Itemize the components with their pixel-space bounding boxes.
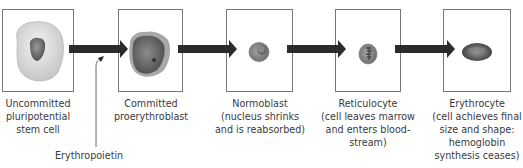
caption-stem-cell: Uncommitted pluripotential stem cell bbox=[0, 97, 76, 136]
arrow-right-icon bbox=[287, 40, 346, 58]
erythropoietin-arrow-icon bbox=[96, 56, 104, 147]
caption-erythrocyte: Erythrocyte (cell achieves final size an… bbox=[427, 97, 523, 162]
arrow-right-icon bbox=[395, 40, 455, 58]
caption-normoblast: Normoblast (nucleus shrinks and is reabs… bbox=[210, 97, 310, 136]
stem-cell-icon bbox=[17, 22, 64, 81]
normoblast-icon bbox=[249, 43, 269, 62]
reticulocyte-icon bbox=[359, 44, 377, 64]
erythropoietin-label: Erythropoietin bbox=[55, 150, 123, 161]
arrow-right-icon bbox=[69, 40, 128, 58]
caption-proerythroblast: Committed proerythroblast bbox=[110, 97, 192, 123]
caption-reticulocyte: Reticulocyte (cell leaves marrow and ent… bbox=[318, 97, 418, 149]
proerythroblast-icon bbox=[129, 31, 170, 76]
arrow-right-icon bbox=[178, 40, 237, 58]
erythrocyte-icon bbox=[462, 43, 492, 61]
